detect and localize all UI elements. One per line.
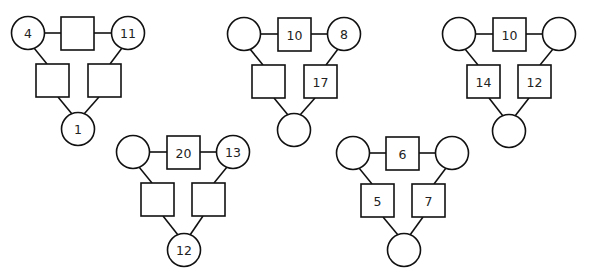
edge-left-lower (58, 97, 72, 114)
top-square-value: 10 (502, 28, 518, 43)
puzzle-4: 201312 (117, 136, 250, 267)
puzzle-5: 657 (337, 137, 469, 267)
edge-right-upper (214, 167, 227, 183)
top-right-circle-value: 8 (340, 27, 348, 42)
puzzle-1: 4111 (12, 17, 145, 146)
right-square-value: 17 (313, 75, 329, 90)
edge-right-upper (540, 49, 553, 65)
bottom-circle (388, 234, 421, 267)
right-square-value: 7 (425, 194, 433, 209)
puzzle-2: 10817 (228, 18, 361, 147)
edge-left-lower (163, 216, 178, 235)
arithmagon-puzzles: 411110817101412201312657 (0, 0, 591, 280)
top-left-circle (443, 18, 476, 51)
left-square (252, 65, 285, 98)
top-right-circle-value: 11 (120, 26, 136, 41)
edge-right-lower (300, 98, 315, 115)
edge-right-upper (326, 49, 338, 65)
edge-left-upper (250, 49, 263, 65)
top-left-circle (117, 136, 150, 169)
bottom-circle (278, 114, 311, 147)
top-left-circle-value: 4 (24, 26, 32, 41)
bottom-circle (493, 115, 526, 148)
top-square-value: 20 (176, 146, 192, 161)
edge-left-upper (465, 49, 478, 65)
top-left-circle (337, 137, 370, 170)
left-square-value: 5 (374, 194, 382, 209)
edge-right-lower (84, 97, 99, 114)
edge-left-lower (383, 217, 398, 235)
edge-right-lower (190, 216, 203, 235)
edge-right-upper (434, 168, 446, 184)
top-right-circle-value: 13 (225, 145, 241, 160)
top-right-circle (543, 18, 576, 51)
edge-left-upper (359, 168, 372, 184)
puzzle-3: 101412 (443, 18, 576, 148)
edge-right-lower (410, 217, 423, 235)
left-square (141, 183, 174, 216)
top-square-value: 6 (399, 147, 407, 162)
right-square (88, 64, 121, 97)
top-left-circle (228, 18, 261, 51)
edge-left-lower (489, 98, 503, 116)
bottom-circle-value: 1 (74, 122, 82, 137)
top-square-value: 10 (287, 28, 303, 43)
edge-left-lower (274, 98, 288, 115)
left-square (36, 64, 69, 97)
bottom-circle-value: 12 (176, 243, 192, 258)
top-square (61, 17, 94, 50)
edge-left-upper (34, 48, 47, 64)
right-square-value: 12 (527, 75, 543, 90)
edge-left-upper (139, 167, 152, 183)
edge-right-lower (515, 98, 529, 116)
top-right-circle (436, 137, 469, 170)
edge-right-upper (110, 48, 122, 64)
left-square-value: 14 (476, 75, 492, 90)
right-square (192, 183, 225, 216)
